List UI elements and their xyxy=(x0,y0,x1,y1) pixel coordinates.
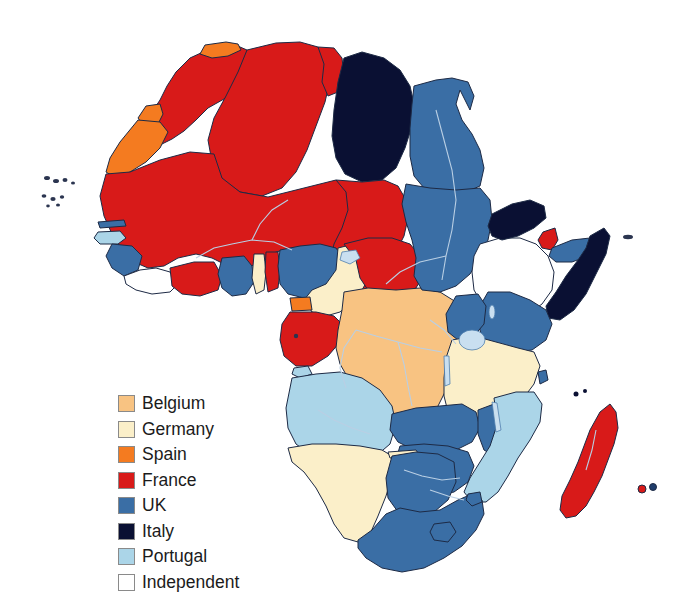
colonial-africa-map-page: Belgium Germany Spain France UK Italy Po… xyxy=(0,0,696,602)
region-portuguese-guinea[interactable] xyxy=(94,231,126,244)
region-mauritius[interactable] xyxy=(650,484,657,491)
legend-label-germany: Germany xyxy=(142,420,214,439)
region-egypt[interactable] xyxy=(410,78,484,192)
legend-swatch-uk xyxy=(118,497,135,514)
region-comoros[interactable] xyxy=(574,392,579,397)
legend-label-portugal: Portugal xyxy=(142,547,207,566)
region-ivory-coast[interactable] xyxy=(170,262,222,296)
region-togoland[interactable] xyxy=(252,254,266,294)
region-reunion[interactable] xyxy=(638,485,646,493)
legend-item-independent[interactable]: Independent xyxy=(118,570,268,596)
legend-swatch-independent xyxy=(118,574,135,591)
legend-item-belgium[interactable]: Belgium xyxy=(118,391,268,417)
lake-victoria xyxy=(459,330,485,350)
region-rio-muni[interactable] xyxy=(290,297,312,311)
legend-item-france[interactable]: France xyxy=(118,468,268,494)
legend-swatch-france xyxy=(118,472,135,489)
legend-swatch-spain xyxy=(118,446,135,463)
region-comoros-2[interactable] xyxy=(583,389,587,393)
legend-swatch-portugal xyxy=(118,548,135,565)
legend-item-spain[interactable]: Spain xyxy=(118,442,268,468)
legend-label-belgium: Belgium xyxy=(142,394,205,413)
region-gambia[interactable] xyxy=(98,220,126,228)
legend-label-uk: UK xyxy=(142,496,166,515)
legend-label-independent: Independent xyxy=(142,573,239,592)
africa-map[interactable] xyxy=(0,0,696,602)
legend-swatch-belgium xyxy=(118,395,135,412)
map-legend: Belgium Germany Spain France UK Italy Po… xyxy=(118,391,268,595)
legend-item-germany[interactable]: Germany xyxy=(118,417,268,443)
legend-item-italy[interactable]: Italy xyxy=(118,519,268,545)
legend-item-portugal[interactable]: Portugal xyxy=(118,544,268,570)
legend-swatch-italy xyxy=(118,523,135,540)
lake-tanganyika xyxy=(444,356,450,386)
region-socotra[interactable] xyxy=(623,235,633,239)
legend-swatch-germany xyxy=(118,421,135,438)
legend-label-spain: Spain xyxy=(142,445,187,464)
region-sao-tome[interactable] xyxy=(294,334,298,338)
lake-turkana xyxy=(489,305,495,319)
legend-item-uk[interactable]: UK xyxy=(118,493,268,519)
region-dahomey[interactable] xyxy=(265,252,280,292)
legend-label-france: France xyxy=(142,471,196,490)
legend-label-italy: Italy xyxy=(142,522,174,541)
